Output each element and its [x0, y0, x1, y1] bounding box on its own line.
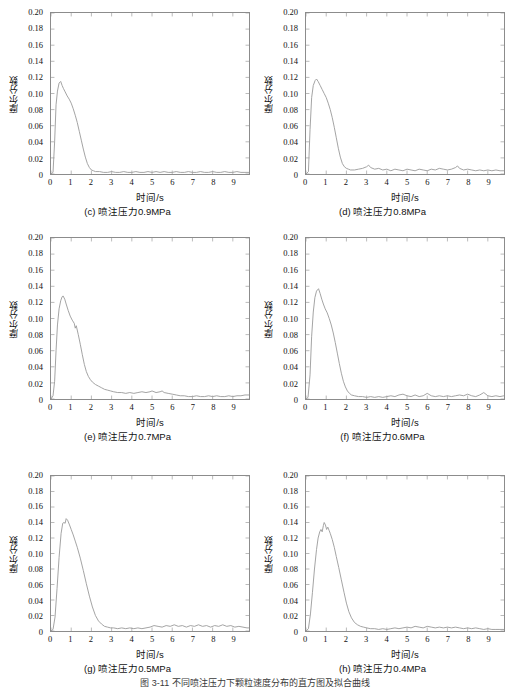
x-tick-label: 4: [385, 403, 389, 412]
x-tick-label: 3: [364, 403, 368, 412]
y-tick-label: 0.14: [283, 518, 298, 527]
x-tick-label: 6: [425, 403, 429, 412]
x-tick-label: 3: [109, 178, 113, 187]
y-tick-label: 0.04: [283, 363, 298, 372]
y-tick-label: 0.06: [28, 347, 43, 356]
x-tick-label: 4: [130, 403, 134, 412]
y-tick-label: 0.12: [283, 534, 298, 543]
x-tick-label: 4: [130, 635, 134, 644]
subplot-caption-g: (g) 喷注压力0.5MPa: [0, 661, 255, 675]
y-tick-label: 0.16: [28, 265, 43, 274]
subplot-panel-h: 摩尔分数 00.020.040.060.080.100.120.140.160.…: [255, 455, 510, 670]
x-tick-label: 8: [466, 403, 470, 412]
y-tick-label: 0.14: [283, 57, 298, 66]
x-tick-label: 8: [211, 403, 215, 412]
y-tick-label: 0.06: [28, 122, 43, 131]
plot-area: [50, 12, 250, 175]
plot-area: [305, 475, 505, 632]
subplot-caption-c: (c) 喷注压力0.9MPa: [0, 204, 255, 218]
x-tick-label: 3: [364, 635, 368, 644]
y-tick-label: 0: [39, 628, 43, 637]
y-tick-label: 0.20: [28, 471, 43, 480]
x-axis-title: 时间/s: [305, 415, 505, 429]
x-tick-label: 7: [446, 635, 450, 644]
y-tick-labels: 00.020.040.060.080.100.120.140.160.180.2…: [0, 475, 47, 632]
x-axis-title: 时间/s: [305, 190, 505, 204]
y-tick-label: 0.12: [283, 298, 298, 307]
x-tick-label: 8: [211, 635, 215, 644]
y-tick-label: 0.20: [28, 233, 43, 242]
data-curve: [51, 296, 249, 399]
x-tick-label: 0: [303, 178, 307, 187]
subplot-caption-e: (e) 喷注压力0.7MPa: [0, 429, 255, 443]
x-tick-label: 4: [385, 178, 389, 187]
x-tick-label: 5: [150, 403, 154, 412]
data-curve: [51, 81, 249, 174]
x-tick-label: 1: [323, 403, 327, 412]
subplot-panel-d: 摩尔分数 00.020.040.060.080.100.120.140.160.…: [255, 0, 510, 225]
x-tick-label: 7: [191, 403, 195, 412]
y-tick-label: 0: [294, 171, 298, 180]
y-tick-label: 0.06: [28, 581, 43, 590]
y-tick-label: 0.14: [28, 518, 43, 527]
y-tick-label: 0.18: [283, 486, 298, 495]
x-tick-label: 5: [405, 403, 409, 412]
y-tick-label: 0.16: [283, 502, 298, 511]
x-tick-label: 7: [446, 403, 450, 412]
y-tick-label: 0.10: [283, 89, 298, 98]
x-tick-label: 9: [232, 635, 236, 644]
x-tick-label: 5: [150, 635, 154, 644]
y-tick-label: 0.12: [28, 534, 43, 543]
x-tick-label: 0: [303, 635, 307, 644]
y-tick-label: 0.04: [28, 363, 43, 372]
y-tick-label: 0.02: [28, 379, 43, 388]
y-tick-label: 0.08: [28, 106, 43, 115]
y-tick-label: 0.10: [283, 549, 298, 558]
x-tick-label: 9: [232, 178, 236, 187]
y-tick-label: 0.06: [283, 581, 298, 590]
x-tick-label: 2: [344, 403, 348, 412]
x-tick-label: 6: [425, 635, 429, 644]
y-tick-label: 0.20: [283, 471, 298, 480]
y-tick-label: 0.18: [283, 249, 298, 258]
y-tick-label: 0.16: [283, 40, 298, 49]
plot-area: [305, 237, 505, 400]
subplot-panel-f: 摩尔分数 00.020.040.060.080.100.120.140.160.…: [255, 225, 510, 455]
x-tick-label: 8: [466, 178, 470, 187]
plot-area: [305, 12, 505, 175]
y-tick-label: 0.14: [28, 57, 43, 66]
x-axis-title: 时间/s: [50, 415, 250, 429]
x-tick-label: 2: [344, 178, 348, 187]
x-tick-label: 3: [109, 403, 113, 412]
y-tick-label: 0.02: [283, 154, 298, 163]
y-tick-label: 0.08: [283, 106, 298, 115]
y-tick-label: 0: [39, 396, 43, 405]
y-tick-label: 0.12: [28, 73, 43, 82]
y-tick-label: 0.04: [28, 138, 43, 147]
x-tick-label: 5: [405, 178, 409, 187]
y-tick-label: 0.04: [283, 138, 298, 147]
y-tick-label: 0: [294, 628, 298, 637]
y-tick-label: 0.10: [283, 314, 298, 323]
x-tick-label: 1: [323, 635, 327, 644]
subplot-caption-f: (f) 喷注压力0.6MPa: [255, 429, 510, 443]
y-tick-label: 0.04: [28, 596, 43, 605]
subplot-panel-c: 摩尔分数 00.020.040.060.080.100.120.140.160.…: [0, 0, 255, 225]
y-tick-label: 0.02: [283, 612, 298, 621]
y-tick-label: 0.02: [28, 612, 43, 621]
data-curve: [306, 289, 504, 399]
x-tick-label: 7: [446, 178, 450, 187]
x-tick-label: 1: [68, 178, 72, 187]
x-tick-label: 8: [466, 635, 470, 644]
y-tick-label: 0.20: [283, 233, 298, 242]
subplot-panel-e: 摩尔分数 00.020.040.060.080.100.120.140.160.…: [0, 225, 255, 455]
y-tick-label: 0.14: [28, 282, 43, 291]
y-tick-label: 0.14: [283, 282, 298, 291]
y-tick-label: 0.18: [28, 486, 43, 495]
y-tick-label: 0.18: [283, 24, 298, 33]
x-tick-label: 6: [425, 178, 429, 187]
plot-svg: [51, 13, 249, 174]
plot-svg: [51, 476, 249, 631]
plot-area: [50, 475, 250, 632]
y-tick-label: 0.16: [28, 40, 43, 49]
